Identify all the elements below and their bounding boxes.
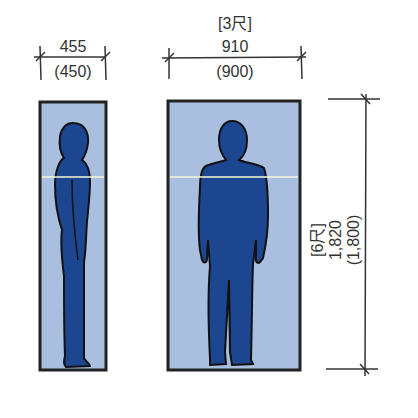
side-width-alt-label: (450) xyxy=(34,63,112,81)
front-width-label: 910 xyxy=(169,38,301,56)
height-label: 1,820 xyxy=(327,200,345,280)
side-width-label: 455 xyxy=(40,38,106,56)
height-labels: [6尺] 1,820 (1,800) xyxy=(309,200,369,280)
side-view-panel xyxy=(40,102,106,370)
front-width-shaku-label: [3尺] xyxy=(169,15,301,33)
front-width-alt-label: (900) xyxy=(169,63,301,81)
front-view-panel xyxy=(168,101,300,370)
height-alt-label: (1,800) xyxy=(345,200,363,280)
height-shaku-label: [6尺] xyxy=(309,200,327,280)
